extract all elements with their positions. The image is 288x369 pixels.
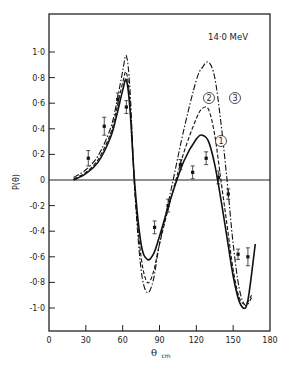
- curve-label-2: 2: [204, 93, 215, 104]
- data-point: [124, 101, 128, 114]
- curve-2: [74, 72, 252, 305]
- experimental-data-points: [86, 93, 250, 266]
- x-tick-label: 90: [154, 336, 164, 345]
- y-tick-label: 1·0: [32, 48, 45, 57]
- data-point: [102, 117, 106, 135]
- x-tick-label: 0: [46, 336, 51, 345]
- y-tick-label: -0·4: [29, 227, 45, 236]
- x-axis-label: θ: [151, 347, 157, 358]
- x-tick-label: 180: [262, 336, 277, 345]
- y-tick-label: 0·4: [32, 125, 45, 134]
- svg-text:1: 1: [218, 137, 223, 146]
- energy-label: 14·0 MeV: [208, 32, 248, 42]
- polarization-chart: 1·00·80·60·40·20-0·2-0·4-0·6-0·8-1·0 030…: [0, 0, 288, 369]
- data-point: [86, 151, 90, 166]
- y-tick-label: 0·2: [32, 150, 45, 159]
- curve-label-1: 1: [216, 136, 227, 147]
- data-point: [246, 248, 250, 266]
- x-tick-label: 60: [118, 336, 128, 345]
- y-tick-label: 0·8: [32, 74, 45, 83]
- curve-label-3: 3: [230, 93, 241, 104]
- y-tick-label: -1·0: [29, 304, 45, 313]
- data-point: [191, 166, 195, 179]
- svg-text:3: 3: [232, 94, 237, 103]
- y-tick-label: 0·6: [32, 99, 45, 108]
- x-axis-ticks: 0306090120150180: [46, 325, 277, 345]
- x-tick-label: 30: [81, 336, 91, 345]
- theory-curves: [74, 55, 256, 308]
- y-tick-label: -0·8: [29, 278, 45, 287]
- y-tick-label: 0: [40, 176, 45, 185]
- plot-frame: [49, 14, 270, 331]
- caption-cutoff: [0, 362, 288, 369]
- data-point: [204, 152, 208, 165]
- svg-text:2: 2: [206, 94, 211, 103]
- data-point: [226, 189, 230, 199]
- x-tick-label: 150: [226, 336, 241, 345]
- y-axis-label: P(θ): [12, 174, 21, 190]
- y-tick-label: -0·6: [29, 253, 45, 262]
- x-tick-label: 120: [189, 336, 204, 345]
- data-point: [236, 249, 240, 259]
- x-axis-label-subscript: cm: [161, 352, 170, 359]
- y-tick-label: -0·2: [29, 202, 45, 211]
- data-point: [153, 221, 157, 234]
